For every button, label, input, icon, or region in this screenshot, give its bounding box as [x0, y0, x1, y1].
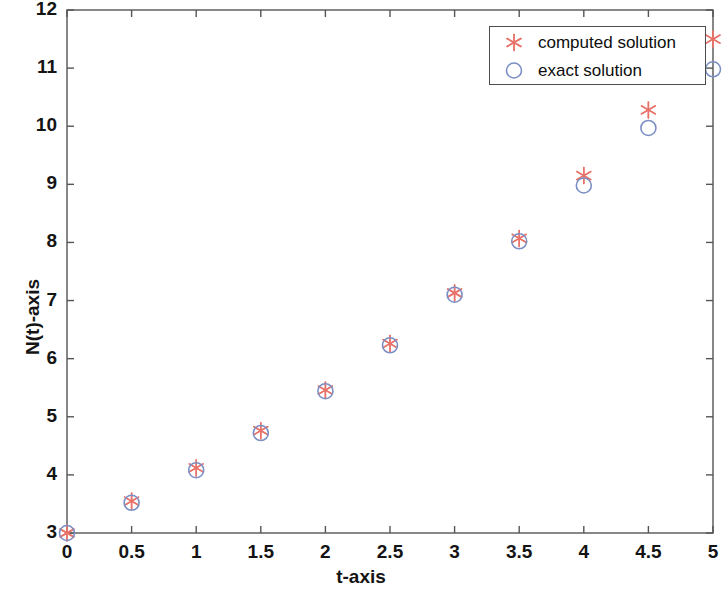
circle-icon [490, 56, 538, 85]
y-tick-label: 10 [1, 114, 57, 136]
legend-entry-exact-solution: exact solution [490, 56, 705, 85]
legend-label-computed-solution: computed solution [538, 33, 676, 53]
legend: computed solution exact solution [489, 26, 706, 85]
y-tick-label: 7 [1, 289, 57, 311]
star-icon [490, 28, 538, 57]
legend-label-exact-solution: exact solution [538, 61, 642, 81]
y-tick-label: 4 [1, 463, 57, 485]
legend-entry-computed-solution: computed solution [490, 28, 705, 57]
y-tick-label: 9 [1, 172, 57, 194]
plot-area [0, 0, 722, 600]
y-tick-label: 3 [1, 521, 57, 543]
x-axis-title: t-axis [0, 566, 722, 588]
scatter-chart-figure: t-axis N(t)-axis 00.511.522.533.544.55 3… [0, 0, 722, 600]
series-exact-solution [60, 62, 721, 541]
x-tick-label: 5 [673, 541, 722, 563]
y-tick-label: 8 [1, 230, 57, 252]
y-tick-label: 12 [1, 0, 57, 20]
y-tick-label: 5 [1, 405, 57, 427]
y-tick-label: 6 [1, 347, 57, 369]
y-tick-label: 11 [1, 56, 57, 78]
series-computed-solution [60, 31, 720, 541]
